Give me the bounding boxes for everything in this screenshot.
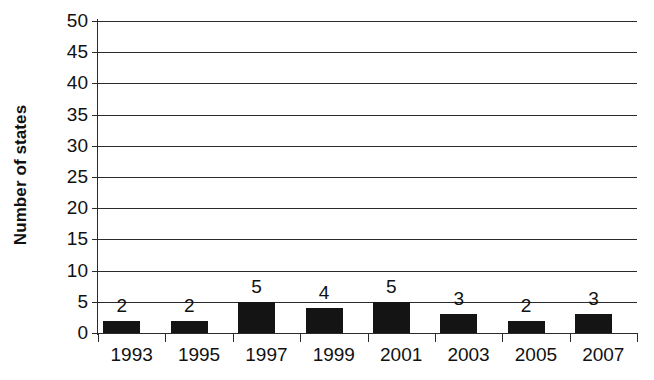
y-tick-label: 40 [44, 73, 88, 92]
bar-value-label: 3 [575, 289, 612, 308]
x-tick-mark [233, 333, 234, 342]
x-tick-mark [165, 333, 166, 342]
bar [103, 321, 140, 333]
y-tick-label: 10 [44, 261, 88, 280]
y-tick-label: 0 [44, 323, 88, 342]
x-axis-ticks [98, 333, 637, 342]
x-tick-mark [570, 333, 571, 342]
x-tick-label: 1993 [98, 344, 165, 366]
bar-value-label: 2 [171, 296, 208, 315]
bar-slot: 5 [233, 21, 300, 333]
bar-series: 22545323 [98, 21, 637, 333]
x-tick-label: 2005 [502, 344, 569, 366]
y-axis-title: Number of states [8, 5, 34, 345]
x-tick-mark [502, 333, 503, 342]
bar-value-label: 2 [103, 296, 140, 315]
bar-slot: 3 [570, 21, 637, 333]
x-tick-label: 2007 [570, 344, 637, 366]
bar [171, 321, 208, 333]
x-tick-label: 1995 [165, 344, 232, 366]
x-tick-mark [300, 333, 301, 342]
y-tick-label: 30 [44, 136, 88, 155]
bar [575, 314, 612, 333]
bar-slot: 2 [502, 21, 569, 333]
x-tick-label: 2001 [368, 344, 435, 366]
y-tick-label: 5 [44, 292, 88, 311]
bar [440, 314, 477, 333]
y-tick-label: 35 [44, 105, 88, 124]
bar [508, 321, 545, 333]
x-tick-mark [368, 333, 369, 342]
bar-slot: 5 [368, 21, 435, 333]
bar-value-label: 3 [440, 289, 477, 308]
x-axis-tick-labels: 19931995199719992001200320052007 [98, 344, 637, 372]
bar-value-label: 5 [238, 277, 275, 296]
bar-value-label: 5 [373, 277, 410, 296]
y-tick-label: 25 [44, 167, 88, 186]
plot-area: 22545323 [98, 21, 637, 333]
x-tick-mark [637, 333, 638, 342]
bar-chart: Number of states 05101520253035404550 22… [0, 0, 654, 380]
x-tick-label: 1999 [300, 344, 367, 366]
bar-slot: 4 [300, 21, 367, 333]
bar-slot: 2 [98, 21, 165, 333]
bar [373, 302, 410, 333]
x-tick-label: 1997 [233, 344, 300, 366]
bar-value-label: 2 [508, 296, 545, 315]
x-tick-mark [98, 333, 99, 342]
bar [306, 308, 343, 333]
bar-slot: 3 [435, 21, 502, 333]
bar-value-label: 4 [306, 283, 343, 302]
y-tick-label: 15 [44, 229, 88, 248]
y-tick-label: 45 [44, 42, 88, 61]
bar-slot: 2 [165, 21, 232, 333]
y-axis-tick-labels: 05101520253035404550 [44, 21, 88, 333]
x-tick-mark [435, 333, 436, 342]
bar [238, 302, 275, 333]
y-tick-label: 50 [44, 11, 88, 30]
y-tick-label: 20 [44, 198, 88, 217]
x-tick-label: 2003 [435, 344, 502, 366]
